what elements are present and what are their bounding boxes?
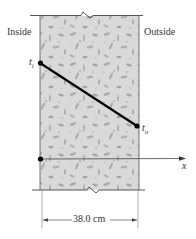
inside-label: Inside bbox=[7, 26, 31, 37]
t-outer-label: to bbox=[142, 122, 148, 136]
arrow-right-icon bbox=[132, 218, 137, 221]
outside-label: Outside bbox=[144, 26, 175, 37]
point-t-inner bbox=[38, 60, 43, 65]
t-inner-label: ti bbox=[29, 56, 34, 70]
concrete-wall bbox=[40, 16, 139, 190]
x-axis bbox=[40, 159, 180, 160]
arrow-left-icon bbox=[43, 218, 48, 221]
t-outer-subscript: o bbox=[145, 128, 149, 136]
x-axis-label: x bbox=[182, 160, 186, 171]
origin-point bbox=[38, 156, 43, 161]
point-t-outer bbox=[134, 123, 139, 128]
dimension-label: 38.0 cm bbox=[73, 213, 105, 224]
t-inner-subscript: i bbox=[32, 62, 34, 70]
